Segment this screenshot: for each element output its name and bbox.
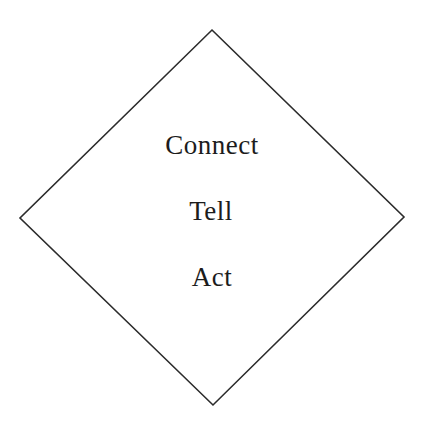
label-tell: Tell [189, 196, 233, 227]
label-connect: Connect [165, 130, 258, 161]
diagram-canvas: Connect Tell Act [0, 0, 424, 428]
label-act: Act [192, 262, 232, 293]
